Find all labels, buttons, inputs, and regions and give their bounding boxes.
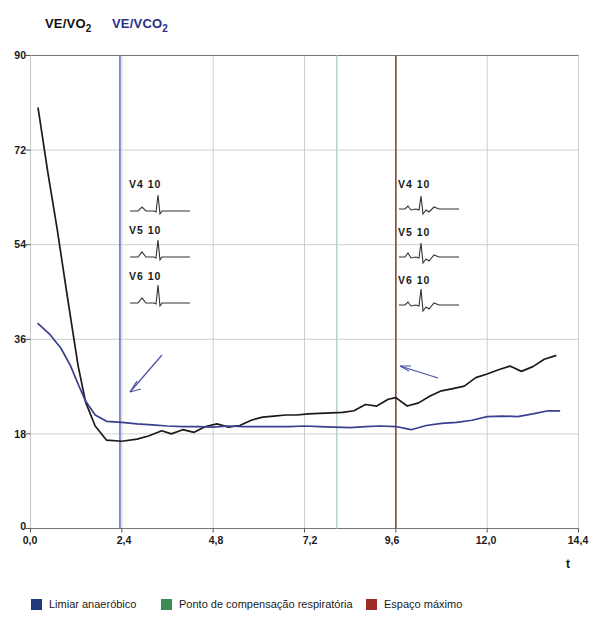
y-tick-label: 36	[2, 333, 26, 345]
series-line-ve/vo2	[38, 108, 556, 441]
chart-container: VE/VO2 VE/VCO2 90 72 54 36 18 0 0,0 2,4 …	[0, 0, 599, 632]
ecg-trace-v5: V5 10	[129, 224, 191, 264]
ecg-waveform-icon	[398, 238, 460, 268]
x-tick-label: 7,2	[293, 534, 327, 546]
legend-swatch-green	[161, 599, 172, 610]
ecg-lead-label: V4 10	[129, 178, 191, 190]
y-tick-label: 0	[2, 520, 26, 532]
legend-swatch-red	[366, 599, 377, 610]
series-label-ve-vo2: VE/VO2	[45, 16, 92, 34]
ecg-lead-label: V5 10	[129, 224, 191, 236]
series-label-ve-vo2-text: VE/VO	[45, 16, 86, 31]
ecg-waveform-icon	[398, 286, 460, 316]
x-tick-label: 9,6	[375, 534, 409, 546]
y-tick-label: 18	[2, 428, 26, 440]
y-tick-label: 54	[2, 238, 26, 250]
series-label-ve-vco2: VE/VCO2	[112, 16, 168, 34]
ecg-trace-v5: V5 10	[398, 226, 460, 268]
series-label-ve-vco2-text: VE/VCO	[112, 16, 162, 31]
ecg-annotation-group-right: V4 10 V5 10 V6 10	[398, 178, 460, 322]
ecg-waveform-icon	[398, 190, 460, 220]
y-tick-label: 90	[2, 49, 26, 61]
legend-item-limiar-anaerobico: Limiar anaeróbico	[31, 598, 136, 610]
arrow-down-left-icon	[130, 355, 162, 392]
ecg-waveform-icon	[129, 282, 191, 310]
legend-label: Limiar anaeróbico	[49, 598, 136, 610]
x-tick-label: 12,0	[469, 534, 503, 546]
series-label-ve-vo2-sub: 2	[86, 23, 92, 34]
ecg-trace-v4: V4 10	[398, 178, 460, 220]
ecg-waveform-icon	[129, 190, 191, 218]
legend-item-ponto-compensacao-respiratoria: Ponto de compensação respiratória	[161, 598, 353, 610]
ecg-trace-v6: V6 10	[129, 270, 191, 310]
ecg-lead-label: V5 10	[398, 226, 460, 238]
ecg-trace-v6: V6 10	[398, 274, 460, 316]
legend-item-espaco-maximo: Espaço máximo	[366, 598, 462, 610]
x-tick-label: 2,4	[107, 534, 141, 546]
legend-label: Espaço máximo	[384, 598, 462, 610]
arrow-left-icon	[400, 366, 438, 378]
ecg-lead-label: V6 10	[129, 270, 191, 282]
ecg-lead-label: V6 10	[398, 274, 460, 286]
x-tick-label: 14,4	[561, 534, 595, 546]
x-tick-label: 0,0	[13, 534, 47, 546]
legend: Limiar anaeróbico Ponto de compensação r…	[0, 596, 599, 618]
ecg-waveform-icon	[129, 236, 191, 264]
legend-swatch-blue	[31, 599, 42, 610]
y-tick-label: 72	[2, 144, 26, 156]
series-label-ve-vco2-sub: 2	[162, 23, 168, 34]
legend-label: Ponto de compensação respiratória	[179, 598, 353, 610]
x-tick-label: 4,8	[199, 534, 233, 546]
ecg-trace-v4: V4 10	[129, 178, 191, 218]
ecg-annotation-group-left: V4 10 V5 10 V6 10	[129, 178, 191, 316]
x-axis-title: t	[566, 557, 570, 571]
ecg-lead-label: V4 10	[398, 178, 460, 190]
